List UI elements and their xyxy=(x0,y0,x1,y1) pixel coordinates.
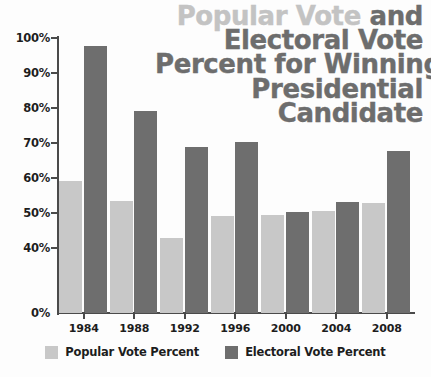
bar-2000-electoral[interactable] xyxy=(286,212,309,313)
bar-2004-electoral[interactable] xyxy=(336,202,359,313)
bar-2004-popular[interactable] xyxy=(312,211,335,313)
y-axis-labels: 100%90%80%70%60%50%40%0% xyxy=(0,0,50,377)
x-tick-1984 xyxy=(83,312,85,319)
x-axis-label-1996: 1996 xyxy=(207,322,263,335)
y-tick-40 xyxy=(51,247,59,249)
x-tick-1992 xyxy=(184,312,186,319)
y-tick-60 xyxy=(51,177,59,179)
chart-figure: Popular Vote and Electoral Vote Percent … xyxy=(0,0,431,377)
legend-swatch-popular xyxy=(45,346,58,359)
bar-1996-electoral[interactable] xyxy=(235,142,258,313)
bar-1988-electoral[interactable] xyxy=(134,111,157,313)
x-tick-2008 xyxy=(386,312,388,319)
y-axis-label-50: 50% xyxy=(2,206,50,220)
x-tick-1996 xyxy=(234,312,236,319)
y-tick-80 xyxy=(51,107,59,109)
legend-item-popular[interactable]: Popular Vote Percent xyxy=(45,345,199,359)
bar-1992-popular[interactable] xyxy=(160,238,183,314)
y-axis-label-70: 70% xyxy=(2,136,50,150)
y-tick-50 xyxy=(51,212,59,214)
bar-2000-popular[interactable] xyxy=(261,215,284,313)
x-tick-2004 xyxy=(335,312,337,319)
chart-title: Popular Vote and Electoral Vote Percent … xyxy=(155,4,423,125)
y-tick-70 xyxy=(51,142,59,144)
x-tick-1988 xyxy=(133,312,135,319)
bar-1984-popular[interactable] xyxy=(59,181,82,313)
legend-label-popular: Popular Vote Percent xyxy=(65,345,199,359)
y-tick-90 xyxy=(51,72,59,74)
y-axis-label-0: 0% xyxy=(2,306,50,320)
y-axis-label-60: 60% xyxy=(2,171,50,185)
y-axis-label-40: 40% xyxy=(2,241,50,255)
y-tick-100 xyxy=(51,37,59,39)
y-axis-label-100: 100% xyxy=(2,31,50,45)
legend-swatch-electoral xyxy=(225,346,238,359)
x-axis-label-2004: 2004 xyxy=(308,322,364,335)
bar-1988-popular[interactable] xyxy=(110,201,133,313)
bar-1984-electoral[interactable] xyxy=(84,46,107,313)
bar-2008-popular[interactable] xyxy=(362,203,385,313)
legend-label-electoral: Electoral Vote Percent xyxy=(245,345,385,359)
x-axis-label-1992: 1992 xyxy=(157,322,213,335)
x-axis-label-1988: 1988 xyxy=(106,322,162,335)
y-axis-label-90: 90% xyxy=(2,66,50,80)
legend-item-electoral[interactable]: Electoral Vote Percent xyxy=(225,345,385,359)
bar-1992-electoral[interactable] xyxy=(185,147,208,313)
x-axis-label-2008: 2008 xyxy=(359,322,415,335)
x-axis-label-1984: 1984 xyxy=(56,322,112,335)
chart-legend: Popular Vote PercentElectoral Vote Perce… xyxy=(0,345,431,359)
y-axis-label-80: 80% xyxy=(2,101,50,115)
bar-2008-electoral[interactable] xyxy=(387,151,410,313)
x-tick-2000 xyxy=(285,312,287,319)
title-line-5: Candidate xyxy=(155,101,423,125)
x-axis-label-2000: 2000 xyxy=(258,322,314,335)
title-line-3: Percent for Winning xyxy=(155,52,423,76)
bar-1996-popular[interactable] xyxy=(211,216,234,313)
